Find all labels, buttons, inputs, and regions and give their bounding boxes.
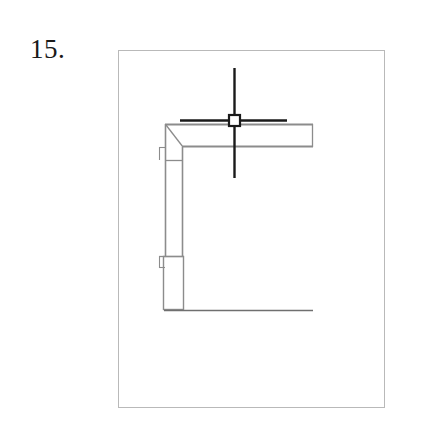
- figure-page: 15.: [0, 0, 435, 444]
- crosshair-pick-box: [229, 115, 240, 126]
- door-opening-rect: [164, 257, 184, 310]
- wall-corner-miter-diagonal: [166, 125, 183, 147]
- cad-drawing-canvas: [0, 0, 435, 444]
